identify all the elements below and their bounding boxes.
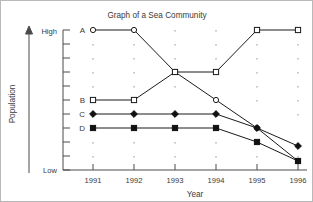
gridline-1996 (298, 44, 299, 158)
x-tick-label-1996: 1996 (290, 176, 307, 185)
data-point-b-1993 (172, 69, 177, 74)
data-point-b-1995 (254, 27, 259, 32)
chart-screenshot: Graph of a Sea Community Population High… (0, 0, 313, 202)
data-point-d-1996 (295, 158, 300, 163)
data-point-c-1993 (172, 111, 179, 118)
series-label-b: B (80, 96, 85, 105)
gridline-1993 (175, 30, 176, 158)
series-a (90, 27, 300, 163)
gridline-1994 (216, 30, 217, 158)
x-tick-label-1993: 1993 (167, 176, 184, 185)
x-axis-ticks (93, 164, 298, 170)
data-point-a-1991 (90, 27, 95, 32)
data-point-b-1994 (213, 69, 218, 74)
y-axis-low-label: Low (43, 166, 57, 175)
x-axis-label: Year (187, 190, 204, 199)
data-point-a-1992 (131, 27, 136, 32)
data-point-c-1991 (90, 111, 97, 118)
vertical-gridlines (93, 30, 299, 158)
data-point-b-1996 (295, 27, 300, 32)
data-point-d-1991 (90, 125, 95, 130)
series-label-a: A (80, 26, 86, 35)
series-b (90, 27, 300, 102)
data-point-d-1993 (172, 125, 177, 130)
sea-community-line-chart: Graph of a Sea Community Population High… (1, 1, 313, 202)
data-point-c-1992 (131, 111, 138, 118)
y-axis-high-label: High (41, 27, 57, 36)
y-axis-label: Population (8, 84, 17, 123)
data-point-d-1994 (213, 125, 218, 130)
chart-title: Graph of a Sea Community (107, 11, 207, 20)
series-d (90, 125, 300, 163)
data-point-d-1995 (254, 139, 259, 144)
y-axis-ticks (63, 30, 70, 170)
series-c (90, 111, 302, 150)
data-point-c-1996 (295, 143, 302, 150)
data-point-b-1991 (90, 97, 95, 102)
x-tick-label-1995: 1995 (249, 176, 266, 185)
data-point-d-1992 (131, 125, 136, 130)
data-point-c-1994 (213, 111, 220, 118)
population-arrow-icon (26, 26, 33, 173)
series-label-d: D (79, 124, 85, 133)
x-tick-label-1992: 1992 (126, 176, 143, 185)
data-point-a-1994 (213, 97, 218, 102)
data-point-b-1992 (131, 97, 136, 102)
x-tick-label-1991: 1991 (85, 176, 102, 185)
x-tick-label-1994: 1994 (208, 176, 225, 185)
series-label-c: C (79, 110, 85, 119)
